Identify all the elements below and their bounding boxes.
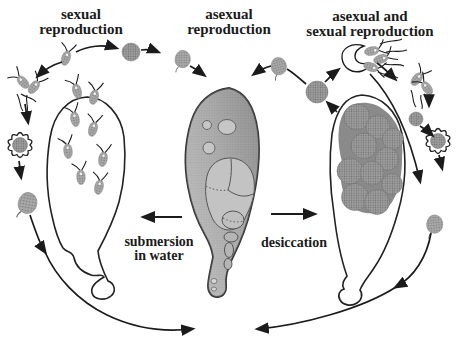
arrow [19, 161, 21, 177]
arrow [76, 46, 116, 52]
spiky-cyst [8, 132, 32, 157]
arrow [141, 50, 158, 52]
label-line: sexual reproduction [306, 24, 433, 39]
arrow [396, 233, 431, 287]
label-line: submersion [124, 235, 193, 249]
amoeba-cell [269, 56, 289, 81]
branch-cyst-cell [306, 81, 328, 103]
label-asexual-and-sexual-reproduction: asexual and sexual reproduction [306, 9, 433, 39]
arrow [38, 62, 62, 76]
label-line: reproduction [39, 22, 123, 37]
arrow [190, 66, 204, 75]
diagram-canvas [0, 0, 463, 341]
left-chain [6, 66, 49, 220]
arrow [258, 287, 396, 329]
zygote-cell [122, 43, 140, 61]
zygote-cell [409, 112, 423, 126]
arrow [30, 215, 45, 252]
label-submersion-in-water: submersion in water [124, 235, 193, 263]
label-line: asexual [187, 7, 271, 22]
life-cycle-diagram: sexual reproduction asexual reproduction… [0, 0, 463, 341]
arrow [439, 155, 442, 168]
amoeba-cell [16, 191, 39, 220]
label-line: in water [124, 249, 193, 263]
label-line: reproduction [187, 22, 271, 37]
label-desiccation: desiccation [261, 236, 327, 250]
label-asexual-reproduction: asexual reproduction [187, 7, 271, 37]
arrow [424, 94, 429, 105]
arrow [377, 63, 395, 79]
arrow [45, 252, 192, 330]
amoeba-cell [175, 50, 190, 72]
left-cell-outline [47, 97, 125, 299]
label-sexual-reproduction: sexual reproduction [39, 7, 123, 37]
arrow [325, 70, 338, 82]
plasmodium-body [186, 88, 259, 297]
label-line: asexual and [306, 9, 433, 24]
label-line: desiccation [261, 236, 327, 250]
arrow [254, 66, 271, 74]
arrow [287, 69, 306, 84]
label-line: sexual [39, 7, 123, 22]
gamete-pair [405, 61, 436, 109]
amoeba-cell [426, 214, 444, 238]
arrow [328, 103, 337, 112]
